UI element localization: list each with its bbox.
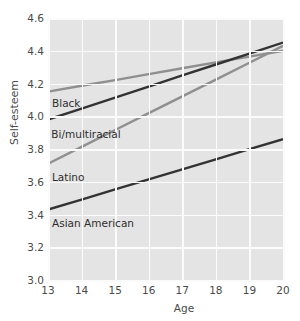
- gridline-vertical: [48, 18, 50, 280]
- x-axis-tick-label: 16: [142, 284, 155, 296]
- y-axis-tick-label: 4.4: [0, 45, 44, 57]
- gridline-horizontal: [48, 149, 283, 151]
- gridline-horizontal: [48, 116, 283, 118]
- y-axis-tick-label: 4.6: [0, 12, 44, 24]
- series-label-latino: Latino: [52, 171, 84, 183]
- gridline-vertical: [249, 18, 251, 280]
- x-axis-title-text: Age: [174, 302, 194, 314]
- series-line-latino: [48, 46, 283, 164]
- x-axis-tick-label: 18: [209, 284, 222, 296]
- y-axis-tick-labels: 4.64.44.24.03.83.63.43.23.0: [0, 0, 46, 321]
- self-esteem-by-age-chart: Self-esteem 4.64.44.24.03.83.63.43.23.0 …: [0, 0, 300, 321]
- gridline-vertical: [283, 18, 285, 280]
- x-axis-title: Age: [0, 302, 300, 314]
- x-axis-tick-label: 13: [41, 284, 54, 296]
- gridline-horizontal: [48, 51, 283, 53]
- y-axis-tick-label: 3.4: [0, 209, 44, 221]
- series-line-bi-multiracial: [48, 43, 283, 120]
- gridline-vertical: [115, 18, 117, 280]
- gridline-horizontal: [48, 84, 283, 86]
- series-label-black: Black: [52, 97, 80, 109]
- gridline-vertical: [216, 18, 218, 280]
- x-axis-tick-label: 15: [108, 284, 121, 296]
- gridline-vertical: [149, 18, 151, 280]
- gridline-horizontal: [48, 280, 283, 282]
- series-line-black: [48, 51, 283, 92]
- gridline-vertical: [182, 18, 184, 280]
- series-label-asian-american: Asian American: [52, 217, 134, 229]
- gridline-horizontal: [48, 247, 283, 249]
- x-axis-tick-labels: 1314151617181920: [0, 284, 300, 304]
- y-axis-tick-label: 3.8: [0, 143, 44, 155]
- y-axis-tick-label: 3.2: [0, 241, 44, 253]
- plot-area: [48, 18, 283, 280]
- x-axis-tick-label: 14: [75, 284, 88, 296]
- gridline-horizontal: [48, 215, 283, 217]
- y-axis-tick-label: 4.0: [0, 110, 44, 122]
- x-axis-tick-label: 17: [176, 284, 189, 296]
- gridline-horizontal: [48, 18, 283, 20]
- x-axis-tick-label: 20: [276, 284, 289, 296]
- y-axis-tick-label: 3.6: [0, 176, 44, 188]
- series-label-bi-multiracial: Bi/multiracial: [51, 128, 120, 140]
- gridline-vertical: [82, 18, 84, 280]
- y-axis-tick-label: 4.2: [0, 78, 44, 90]
- x-axis-tick-label: 19: [243, 284, 256, 296]
